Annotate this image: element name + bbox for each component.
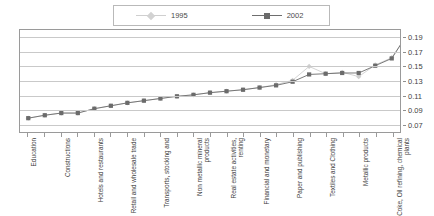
gridline xyxy=(20,81,400,82)
y-axis: 0.070.090.110.130.150.170.19 xyxy=(403,29,433,133)
gridline xyxy=(20,37,400,38)
x-axis-tick xyxy=(310,133,311,137)
x-axis-labels: EducationConstructionsHotels and restaur… xyxy=(19,138,401,216)
data-point-2002 xyxy=(390,56,394,60)
y-axis-tick xyxy=(403,52,406,53)
data-point-2002 xyxy=(340,71,344,75)
y-axis-tick-label: 0.15 xyxy=(408,62,423,71)
x-axis-tick xyxy=(77,133,78,137)
legend-label-2002: 2002 xyxy=(287,11,304,20)
legend-marker-1995-icon xyxy=(136,12,166,20)
x-axis-tick xyxy=(144,133,145,137)
plot-area xyxy=(19,29,401,133)
x-axis-category-label: Real estate activities, renting xyxy=(230,138,245,216)
y-axis-tick-label: 0.19 xyxy=(408,33,423,42)
y-axis-tick xyxy=(403,110,406,111)
legend-item-2002: 2002 xyxy=(252,11,304,20)
series-line-2002 xyxy=(28,33,400,118)
y-axis-tick-label: 0.13 xyxy=(408,77,423,86)
y-axis-tick-label: 0.11 xyxy=(408,91,422,100)
x-axis-tick xyxy=(393,133,394,137)
gridline xyxy=(20,66,400,67)
data-point-2002 xyxy=(324,72,328,76)
x-axis-category-label: Financial and monetary xyxy=(263,138,270,216)
x-axis-category-label: Paper and publishing xyxy=(296,138,303,216)
gridline xyxy=(20,96,400,97)
y-axis-tick-label: 0.09 xyxy=(408,106,423,115)
x-axis-category-label: Transports, stocking and xyxy=(163,138,170,216)
x-axis-ticks xyxy=(19,133,401,137)
data-point-2002 xyxy=(26,116,30,120)
data-point-2002 xyxy=(257,85,261,89)
legend-item-1995: 1995 xyxy=(136,11,188,20)
legend-label-1995: 1995 xyxy=(171,11,188,20)
chart-container: 1995 2002 0.070.090.110.130.150.170.19 E… xyxy=(0,0,434,216)
gridline xyxy=(20,125,400,126)
series-line-1995 xyxy=(28,33,400,118)
legend-marker-2002-icon xyxy=(252,12,282,20)
x-axis-category-label: Hotels and restaurants xyxy=(97,138,104,216)
gridline xyxy=(20,52,400,53)
x-axis-category-label: Education xyxy=(30,138,37,216)
x-axis-tick xyxy=(243,133,244,137)
x-axis-tick xyxy=(210,133,211,137)
x-axis-tick xyxy=(227,133,228,137)
x-axis-tick xyxy=(260,133,261,137)
x-axis-category-label: Retail and wholesale trade xyxy=(130,138,137,216)
x-axis-tick xyxy=(177,133,178,137)
x-axis-category-label: Textiles and Clothing xyxy=(329,138,336,216)
data-point-2002 xyxy=(76,111,80,115)
x-axis-tick xyxy=(27,133,28,137)
data-point-2002 xyxy=(109,104,113,108)
y-axis-tick xyxy=(403,81,406,82)
x-axis-tick xyxy=(193,133,194,137)
y-axis-tick xyxy=(403,96,406,97)
y-axis-tick-label: 0.17 xyxy=(408,47,423,56)
x-axis-tick xyxy=(160,133,161,137)
x-axis-tick xyxy=(276,133,277,137)
data-point-2002 xyxy=(307,72,311,76)
chart-legend: 1995 2002 xyxy=(113,5,330,26)
gridline xyxy=(20,110,400,111)
x-axis-tick xyxy=(326,133,327,137)
data-point-2002 xyxy=(59,111,63,115)
x-axis-tick xyxy=(376,133,377,137)
data-point-2002 xyxy=(43,113,47,117)
x-axis-tick xyxy=(110,133,111,137)
y-axis-tick xyxy=(403,125,406,126)
data-point-2002 xyxy=(241,88,245,92)
x-axis-tick xyxy=(61,133,62,137)
y-axis-tick xyxy=(403,37,406,38)
data-point-2002 xyxy=(208,91,212,95)
x-axis-tick xyxy=(44,133,45,137)
data-point-2002 xyxy=(224,89,228,93)
data-point-2002 xyxy=(158,96,162,100)
x-axis-tick xyxy=(127,133,128,137)
data-point-2002 xyxy=(125,101,129,105)
data-point-2002 xyxy=(274,83,278,87)
y-axis-tick-label: 0.07 xyxy=(408,120,423,129)
x-axis-category-label: Non metallic mineral products xyxy=(196,138,211,216)
x-axis-category-label: Metallic products xyxy=(362,138,369,216)
x-axis-tick xyxy=(94,133,95,137)
x-axis-tick xyxy=(343,133,344,137)
data-point-2002 xyxy=(357,71,361,75)
x-axis-category-label: Constructions xyxy=(64,138,71,216)
y-axis-tick xyxy=(403,66,406,67)
x-axis-category-label: Coke, Oil refining, chemical plants xyxy=(396,138,411,216)
x-axis-tick xyxy=(293,133,294,137)
x-axis-tick xyxy=(359,133,360,137)
data-point-2002 xyxy=(142,99,146,103)
